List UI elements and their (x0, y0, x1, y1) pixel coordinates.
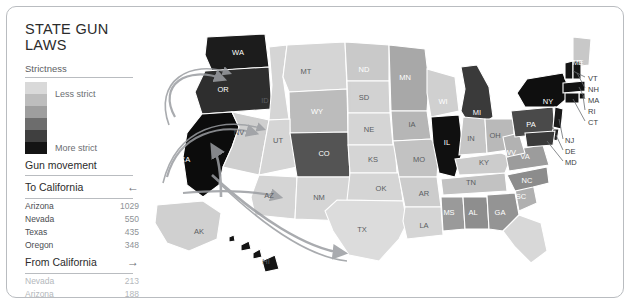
row-value: 550 (125, 214, 139, 224)
page-title: STATE GUN LAWS (19, 15, 147, 63)
state-label-MS: MS (443, 208, 454, 217)
callout-label-RI: RI (588, 107, 596, 116)
callout-label-NH: NH (588, 85, 599, 94)
to-california-label: To California (25, 181, 83, 193)
row-value: 348 (125, 240, 139, 250)
state-label-VA: VA (520, 152, 529, 161)
state-label-SC: SC (516, 192, 526, 201)
state-label-NV: NV (234, 128, 244, 137)
state-label-KY: KY (479, 158, 489, 167)
state-label-HI: HI (262, 257, 270, 266)
state-label-SD: SD (359, 93, 369, 102)
state-WI (427, 69, 459, 117)
state-label-NE: NE (364, 125, 374, 134)
ramp-swatch-4 (25, 130, 47, 142)
strictness-ramp: Less strict More strict (25, 82, 147, 154)
movement-heading: Gun movement (19, 154, 147, 175)
to-california-rows: Arizona1029Nevada550Texas435Oregon348 (19, 199, 147, 251)
state-label-OH: OH (489, 131, 500, 140)
ramp-more-label: More strict (55, 143, 97, 153)
data-row: Arizona1029 (19, 199, 147, 212)
state-label-OR: OR (217, 85, 228, 94)
row-state-name: Nevada (25, 214, 54, 224)
row-value: 435 (125, 227, 139, 237)
legend-panel: STATE GUN LAWS Strictness Less strict Mo… (19, 15, 147, 298)
state-label-ID: ID (261, 96, 269, 105)
callout-label-CT: CT (588, 118, 598, 127)
row-value: 188 (125, 289, 139, 299)
data-row: Nevada213 (19, 274, 147, 287)
state-label-PA: PA (526, 120, 535, 129)
ramp-swatch-1 (25, 94, 47, 106)
callout-label-MD: MD (565, 158, 577, 167)
arrow-right-icon: → (127, 255, 139, 269)
state-label-NC: NC (522, 176, 533, 185)
callout-label-NJ: NJ (565, 136, 574, 145)
state-label-KS: KS (368, 155, 378, 164)
from-california-header: From California → (19, 251, 147, 273)
data-row: Nevada550 (19, 212, 147, 225)
state-ND (345, 42, 389, 81)
callout-label-DE: DE (565, 147, 575, 156)
ramp-swatch-0 (25, 82, 47, 94)
callout-label-VT: VT (588, 74, 598, 83)
state-MT (283, 42, 347, 92)
state-label-ND: ND (359, 65, 370, 74)
state-label-WY: WY (311, 107, 323, 116)
state-HI (229, 235, 279, 272)
state-label-CA: CA (180, 155, 190, 164)
state-label-TN: TN (466, 178, 476, 187)
state-label-NY: NY (543, 97, 553, 106)
state-MD (525, 131, 555, 147)
state-label-UT: UT (273, 136, 283, 145)
ramp-less-label: Less strict (55, 89, 96, 99)
state-label-AR: AR (419, 189, 429, 198)
state-label-IL: IL (444, 138, 450, 147)
ramp-swatch-2 (25, 106, 47, 118)
state-label-GA: GA (495, 208, 506, 217)
state-label-MO: MO (413, 155, 425, 164)
state-label-LA: LA (419, 221, 428, 230)
state-label-WI: WI (438, 97, 447, 106)
row-value: 213 (125, 276, 139, 286)
from-california-label: From California (25, 256, 97, 268)
arrow-left-icon: ← (127, 180, 139, 194)
row-state-name: Texas (25, 227, 47, 237)
ramp-swatch-3 (25, 118, 47, 130)
state-NJ (553, 107, 563, 129)
state-label-AL: AL (468, 208, 477, 217)
row-value: 1029 (120, 201, 139, 211)
state-label-TX: TX (357, 225, 367, 234)
ramp-swatch-5 (25, 142, 47, 154)
row-state-name: Arizona (25, 201, 54, 211)
state-label-MN: MN (399, 73, 411, 82)
infographic-card: WAORCANVIDMTWYUTCOAZNMNDSDNEKSOKTXMNIAMO… (6, 6, 624, 298)
state-label-OK: OK (376, 184, 387, 193)
state-AK (155, 201, 221, 251)
state-label-AZ: AZ (264, 191, 274, 200)
color-ramp-swatches (25, 82, 47, 154)
state-label-WV: WV (504, 148, 516, 157)
callout-label-MA: MA (588, 96, 599, 105)
row-state-name: Oregon (25, 240, 53, 250)
state-label-IA: IA (408, 120, 415, 129)
state-CT (565, 93, 579, 103)
state-MA (563, 81, 585, 93)
state-label-NM: NM (313, 193, 325, 202)
state-label-MT: MT (301, 67, 312, 76)
from-california-rows: Nevada213Arizona188Oregon124Texas106 (19, 274, 147, 298)
state-label-AK: AK (194, 227, 204, 236)
state-label-ME: ME (572, 58, 583, 67)
state-RI (579, 93, 585, 99)
divider-legend (25, 77, 133, 78)
data-row: Oregon348 (19, 238, 147, 251)
state-label-CO: CO (318, 149, 329, 158)
to-california-header: To California ← (19, 176, 147, 198)
data-row: Texas435 (19, 225, 147, 238)
state-label-MI: MI (473, 108, 481, 117)
state-label-IN: IN (467, 134, 475, 143)
row-state-name: Nevada (25, 276, 54, 286)
row-state-name: Arizona (25, 289, 54, 299)
data-row: Arizona188 (19, 287, 147, 298)
legend-heading: Strictness (19, 63, 147, 77)
